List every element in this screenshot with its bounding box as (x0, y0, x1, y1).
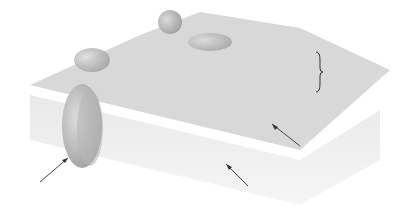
protein-icon (62, 84, 103, 168)
membrane-diagram (0, 0, 409, 207)
